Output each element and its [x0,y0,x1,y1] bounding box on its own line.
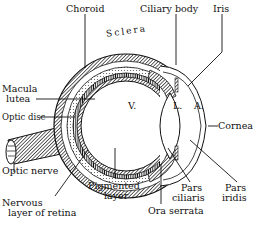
iris-label: Iris [213,4,229,14]
ora-serrata-label: Ora serrata [148,206,204,216]
macula-lutea-label-line2: lutea [6,94,30,104]
vitreous-label: V. [128,101,136,111]
pigmented-layer-label-line2: layer [104,191,128,201]
anterior-chamber-label: A. [194,101,204,111]
pars-ciliaris-label-line2: ciliaris [172,193,205,203]
lens-label: L. [173,101,182,111]
optic-nerve-label: Optic nerve [2,166,58,176]
pars-iridis-label-line2: iridis [222,193,247,203]
ciliary-body-label: Ciliary body [140,4,198,14]
choroid-label: Choroid [66,4,105,14]
nervous-layer-label-line2: layer of retina [8,208,76,218]
cornea-label: Cornea [218,121,253,131]
optic-disc-label: Optic disc [2,112,45,122]
